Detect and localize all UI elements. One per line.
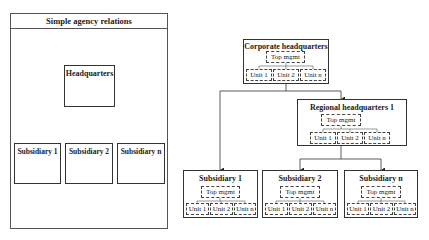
- regional-top-mgmt: Top mgmt: [321, 114, 361, 126]
- regional-unit-1: Unit 1: [310, 132, 336, 144]
- simple-subsidiary-n: Subsidiary n: [117, 143, 165, 184]
- corporate-unit-n: Unit n: [300, 69, 326, 81]
- sub2-unit-n: Unit n: [313, 203, 336, 215]
- simple-subsidiary-1: Subsidiary 1: [14, 143, 61, 184]
- simple-subsidiary-2: Subsidiary 2: [65, 143, 113, 184]
- sub1-top-mgmt: Top mgmt: [201, 186, 240, 198]
- subn-top-mgmt: Top mgmt: [361, 186, 401, 198]
- headquarters-label: Headquarters: [65, 68, 114, 79]
- sub2-unit-2: Unit 2: [289, 203, 312, 215]
- sub2-unit-1: Unit 1: [265, 203, 288, 215]
- simple-agency-panel: Simple agency relations: [10, 13, 168, 229]
- regional-unit-2: Unit 2: [337, 132, 363, 144]
- subn-unit-2: Unit 2: [370, 203, 393, 215]
- sub2-top-mgmt: Top mgmt: [280, 186, 320, 198]
- corporate-unit-2: Unit 2: [273, 69, 299, 81]
- sub1-unit-n: Unit n: [234, 203, 256, 215]
- simple-panel-title: Simple agency relations: [11, 14, 167, 29]
- subn-unit-1: Unit 1: [347, 203, 369, 215]
- regional-unit-n: Unit n: [364, 132, 390, 144]
- headquarters-box: Headquarters: [64, 65, 115, 107]
- corporate-top-mgmt: Top mgmt: [266, 51, 305, 63]
- subn-unit-n: Unit n: [394, 203, 416, 215]
- sub1-unit-2: Unit 2: [210, 203, 233, 215]
- corporate-unit-1: Unit 1: [246, 69, 272, 81]
- sub1-unit-1: Unit 1: [186, 203, 209, 215]
